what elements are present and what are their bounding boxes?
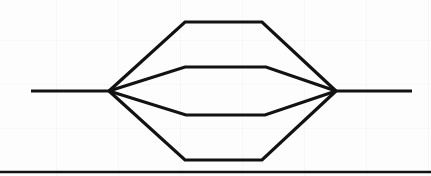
- ink-strokes: [0, 22, 431, 172]
- branch-path-upper-middle: [109, 67, 336, 91]
- scanned-page: [0, 0, 431, 176]
- branch-path-lower-middle: [109, 91, 336, 115]
- path-diagram: [0, 0, 431, 176]
